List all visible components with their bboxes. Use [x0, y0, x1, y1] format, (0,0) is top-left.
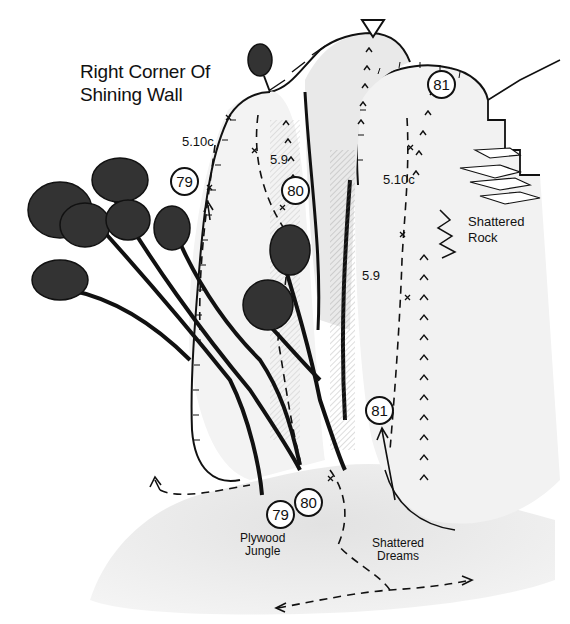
route-81-name: Shattered Dreams [372, 537, 424, 563]
route-81-lower-grade: 5.9 [362, 268, 380, 283]
route-81-marker-base: 81 [365, 396, 394, 425]
route-81-marker-top: 81 [427, 70, 456, 99]
shattered-rock-label: Shattered Rock [468, 214, 524, 246]
diagram-title: Right Corner Of Shining Wall [80, 60, 210, 106]
title-line-2: Shining Wall [80, 83, 210, 106]
route-81-upper-grade: 5.10c [383, 172, 415, 187]
route-79-marker-base: 79 [266, 500, 295, 529]
route-79-grade: 5.10c [182, 134, 214, 149]
route-80-grade: 5.9 [270, 152, 288, 167]
route-80-marker-base: 80 [294, 488, 323, 517]
route-79-marker: 79 [170, 167, 199, 196]
title-line-1: Right Corner Of [80, 60, 210, 83]
route-79-name: Plywood Jungle [240, 532, 285, 558]
approach-arrow [150, 477, 161, 490]
right-rock-face [355, 60, 560, 530]
route-80-marker: 80 [281, 176, 310, 205]
